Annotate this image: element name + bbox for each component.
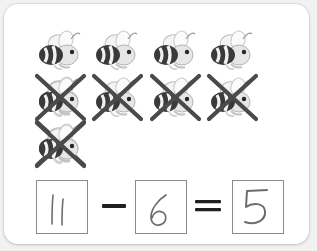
bee-icon (209, 30, 259, 74)
bee-icon (152, 30, 202, 74)
list-item (152, 77, 205, 123)
equals-sign-icon: = (194, 196, 222, 216)
list-item (37, 77, 90, 123)
bee-icon (209, 77, 259, 121)
bee-icon (37, 77, 87, 121)
list-item (37, 124, 90, 170)
list-item (152, 30, 205, 76)
counter-row-3 (37, 124, 90, 172)
equation-row: 11 - 6 = 5 (4, 172, 309, 244)
handwritten-6 (136, 181, 184, 231)
counter-row-1 (37, 30, 309, 78)
minuend-box[interactable]: 11 (36, 180, 88, 234)
list-item (37, 30, 90, 76)
bee-icon (37, 124, 87, 168)
bee-icon (94, 77, 144, 121)
answer-box[interactable]: 5 (232, 180, 284, 234)
counter-row-2 (37, 77, 309, 125)
handwritten-5 (233, 181, 281, 231)
list-item (94, 30, 147, 76)
list-item (209, 77, 262, 123)
bee-icon (152, 77, 202, 121)
subtrahend-box[interactable]: 6 (135, 180, 187, 234)
minus-sign-icon: - (101, 202, 127, 210)
bee-icon (37, 30, 87, 74)
worksheet-card: 11 - 6 = 5 (4, 4, 309, 244)
handwritten-11 (37, 181, 85, 231)
list-item (94, 77, 147, 123)
bee-icon (94, 30, 144, 74)
list-item (209, 30, 262, 76)
